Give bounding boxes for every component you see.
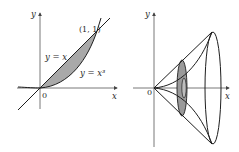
- washer-inner: [182, 78, 186, 98]
- y-axis-label: y: [144, 9, 150, 19]
- x-axis-label: x: [225, 91, 230, 101]
- intersection-label: (1, 1): [79, 25, 101, 34]
- origin-label: 0: [147, 88, 152, 97]
- left-panel: y x 0 (1, 1) y = x y = x³: [17, 9, 117, 110]
- x-axis-label: x: [112, 91, 117, 101]
- y-axis-label: y: [30, 9, 36, 19]
- cubic-equation-label: y = x³: [79, 68, 106, 78]
- origin-label: 0: [42, 91, 47, 100]
- right-panel: y x 0: [133, 9, 230, 147]
- diagram-canvas: y x 0 (1, 1) y = x y = x³ y x 0: [0, 0, 239, 152]
- line-equation-label: y = x: [44, 52, 67, 62]
